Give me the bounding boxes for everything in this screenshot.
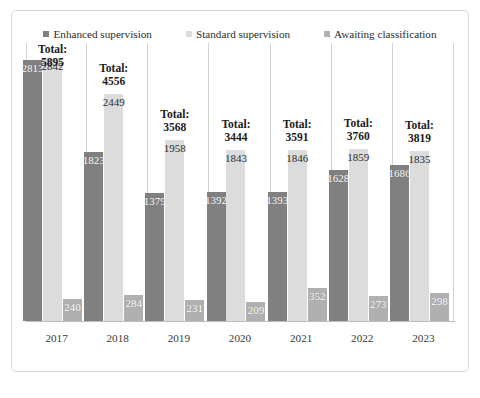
chart-figure: Enhanced supervisionStandard supervision… <box>0 0 480 398</box>
group-total-label: Total:5895 <box>38 43 67 68</box>
bar-value-label: 352 <box>309 290 326 302</box>
bar-value-label: 1835 <box>408 153 430 165</box>
bar-standard-supervision-2019[interactable]: 1958 <box>165 140 184 321</box>
bar-enhanced-supervision-2023[interactable]: 1686 <box>390 165 409 321</box>
group-total-value: 3568 <box>160 121 189 134</box>
bar-value-label: 1823 <box>83 154 105 166</box>
bar-value-label: 231 <box>187 302 204 314</box>
group-total-label: Total:3760 <box>344 117 373 142</box>
x-tick-2020: 2020 <box>209 332 270 344</box>
bar-group: 16861835298Total:3819 <box>393 43 454 321</box>
group-total-label: Total:3568 <box>160 108 189 133</box>
bar-awaiting-classification-2018[interactable]: 284 <box>124 295 143 321</box>
bar-enhanced-supervision-2022[interactable]: 1628 <box>329 170 348 321</box>
bar-value-label: 1379 <box>144 195 166 207</box>
bar-enhanced-supervision-2020[interactable]: 1392 <box>207 192 226 321</box>
bar-group: 13791958231Total:3568 <box>148 43 209 321</box>
x-tick-2018: 2018 <box>87 332 148 344</box>
group-total-value: 3760 <box>344 130 373 143</box>
bar-value-label: 1843 <box>225 152 247 164</box>
group-total-prefix: Total: <box>99 62 128 75</box>
x-tick-2021: 2021 <box>271 332 332 344</box>
group-total-prefix: Total: <box>160 108 189 121</box>
group-total-prefix: Total: <box>283 118 312 131</box>
bar-standard-supervision-2018[interactable]: 2449 <box>104 94 123 321</box>
bar-group: 18232449284Total:4556 <box>87 43 148 321</box>
group-total-prefix: Total: <box>405 119 434 132</box>
group-total-prefix: Total: <box>221 118 250 131</box>
bar-enhanced-supervision-2018[interactable]: 1823 <box>84 152 103 321</box>
bar-enhanced-supervision-2017[interactable]: 2813 <box>23 60 42 321</box>
x-tick-2022: 2022 <box>332 332 393 344</box>
bar-standard-supervision-2023[interactable]: 1835 <box>410 151 429 321</box>
bar-group: 28132842240Total:5895 <box>26 43 87 321</box>
group-total-value: 3591 <box>283 131 312 144</box>
bar-enhanced-supervision-2021[interactable]: 1393 <box>268 192 287 321</box>
x-tick-2023: 2023 <box>393 332 454 344</box>
bar-standard-supervision-2021[interactable]: 1846 <box>288 150 307 321</box>
bar-enhanced-supervision-2019[interactable]: 1379 <box>145 193 164 321</box>
group-total-prefix: Total: <box>38 43 67 56</box>
bar-awaiting-classification-2022[interactable]: 273 <box>369 296 388 321</box>
bar-group: 13921843209Total:3444 <box>209 43 270 321</box>
x-tick-2019: 2019 <box>148 332 209 344</box>
bar-awaiting-classification-2017[interactable]: 240 <box>63 299 82 321</box>
bar-value-label: 1846 <box>286 152 308 164</box>
category-gridline <box>453 43 454 321</box>
bar-value-label: 1628 <box>327 172 349 184</box>
group-total-label: Total:3444 <box>221 118 250 143</box>
bar-standard-supervision-2022[interactable]: 1859 <box>349 149 368 321</box>
group-total-prefix: Total: <box>344 117 373 130</box>
bar-value-label: 284 <box>125 297 142 309</box>
group-total-value: 5895 <box>38 56 67 69</box>
group-total-label: Total:3819 <box>405 119 434 144</box>
bar-awaiting-classification-2021[interactable]: 352 <box>308 288 327 321</box>
axis-baseline <box>26 321 455 322</box>
bar-value-label: 1686 <box>388 167 410 179</box>
group-total-value: 3819 <box>405 132 434 145</box>
bar-value-label: 209 <box>248 304 265 316</box>
bar-value-label: 2449 <box>103 96 125 108</box>
bar-value-label: 240 <box>64 301 81 313</box>
bar-value-label: 273 <box>370 298 387 310</box>
bar-value-label: 1958 <box>164 142 186 154</box>
group-total-label: Total:3591 <box>283 118 312 143</box>
x-tick-2017: 2017 <box>26 332 87 344</box>
bar-awaiting-classification-2023[interactable]: 298 <box>430 293 449 321</box>
bar-value-label: 1392 <box>205 194 227 206</box>
group-total-value: 4556 <box>99 75 128 88</box>
bar-standard-supervision-2020[interactable]: 1843 <box>226 150 245 321</box>
bar-awaiting-classification-2019[interactable]: 231 <box>185 300 204 321</box>
plot-area: 28132842240Total:589518232449284Total:45… <box>26 43 454 321</box>
clipped-top-text <box>96 0 246 3</box>
bar-awaiting-classification-2020[interactable]: 209 <box>246 302 265 321</box>
bar-value-label: 1393 <box>266 194 288 206</box>
bar-group: 16281859273Total:3760 <box>332 43 393 321</box>
group-total-value: 3444 <box>221 131 250 144</box>
bar-value-label: 298 <box>431 295 448 307</box>
bar-standard-supervision-2017[interactable]: 2842 <box>43 58 62 321</box>
bar-group: 13931846352Total:3591 <box>271 43 332 321</box>
bar-value-label: 1859 <box>347 151 369 163</box>
x-axis-tick-labels: 2017201820192020202120222023 <box>26 332 454 350</box>
group-total-label: Total:4556 <box>99 62 128 87</box>
